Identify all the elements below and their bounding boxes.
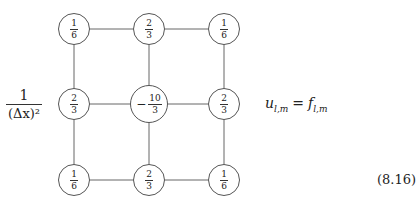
- stencil-node-bottom-left: 16: [58, 164, 90, 196]
- stencil-node-bottom-center: 23: [133, 164, 165, 196]
- stencil-node-middle-left: 23: [58, 88, 90, 120]
- stencil-coefficient: 1 (Δx)²: [8, 88, 40, 121]
- equation-number: (8.16): [377, 172, 416, 187]
- equation-lhs-subscript: l,m: [274, 104, 288, 114]
- coefficient-denominator: (Δx)²: [8, 105, 40, 121]
- stencil-node-middle-right: 23: [208, 88, 240, 120]
- stencil-node-center: − 103: [130, 85, 168, 123]
- equation-operator: =: [292, 95, 304, 111]
- stencil-equation: ul,m=fl,m: [265, 95, 328, 114]
- stencil-node-top-center: 23: [133, 13, 165, 45]
- stencil-node-bottom-right: 16: [208, 164, 240, 196]
- stencil-node-top-right: 16: [208, 13, 240, 45]
- coefficient-numerator: 1: [6, 88, 42, 105]
- equation-lhs: u: [265, 95, 274, 111]
- stencil-node-top-left: 16: [58, 13, 90, 45]
- equation-rhs-subscript: l,m: [313, 104, 327, 114]
